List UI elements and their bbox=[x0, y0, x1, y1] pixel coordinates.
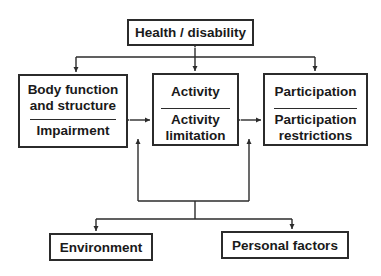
participation-restrictions-text: Participation restrictions bbox=[275, 109, 357, 144]
activity-limitation-line1: Activity bbox=[166, 112, 226, 128]
participation-top: Participation bbox=[275, 75, 357, 107]
participation-line1: Participation bbox=[275, 84, 357, 100]
body-function-top: Body function and structure bbox=[28, 76, 119, 118]
activity-line1: Activity bbox=[171, 84, 220, 100]
activity-limitation-text: Activity limitation bbox=[166, 109, 226, 144]
impairment-text: Impairment bbox=[37, 120, 110, 139]
environment-node: Environment bbox=[49, 233, 153, 261]
personal-factors-node: Personal factors bbox=[221, 231, 349, 259]
personal-factors-label: Personal factors bbox=[232, 238, 338, 253]
health-disability-node: Health / disability bbox=[127, 19, 254, 46]
activity-top: Activity bbox=[171, 75, 220, 107]
participation-node: Participation Participation restrictions bbox=[263, 73, 368, 146]
body-function-node: Body function and structure Impairment bbox=[18, 74, 128, 148]
environment-label: Environment bbox=[60, 240, 143, 255]
participation-restrictions-line1: Participation bbox=[275, 112, 357, 128]
activity-node: Activity Activity limitation bbox=[152, 73, 239, 146]
health-disability-label: Health / disability bbox=[135, 25, 246, 40]
participation-restrictions-line2: restrictions bbox=[275, 128, 357, 144]
activity-limitation-line2: limitation bbox=[166, 128, 226, 144]
body-function-line2: and structure bbox=[28, 98, 119, 114]
impairment-line1: Impairment bbox=[37, 123, 110, 138]
body-function-line1: Body function bbox=[28, 82, 119, 98]
